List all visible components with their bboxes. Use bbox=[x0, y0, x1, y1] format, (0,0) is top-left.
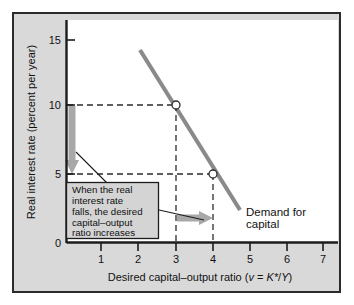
x-ticklabel-5: 5 bbox=[247, 253, 253, 265]
x-ticklabel-4: 4 bbox=[210, 253, 216, 265]
y-axis-title: Real interest rate (percent per year) bbox=[25, 45, 37, 219]
explanation-line-2: interest rate bbox=[72, 195, 123, 206]
x-axis-title-k: K* bbox=[266, 271, 278, 283]
point-a-marker bbox=[172, 101, 180, 109]
x-ticklabel-2: 2 bbox=[135, 253, 141, 265]
demand-curve-label-line1: Demand for bbox=[246, 206, 306, 218]
x-axis-title-eq: = bbox=[254, 271, 267, 283]
x-axis-ticks bbox=[101, 243, 323, 251]
y-ticklabel-10: 10 bbox=[49, 99, 61, 111]
demand-curve-label-line2: capital bbox=[246, 218, 279, 230]
explanation-line-5: ratio increases bbox=[72, 227, 135, 238]
x-axis-title-suffix: ) bbox=[289, 271, 293, 283]
annotation-leader-up bbox=[76, 152, 110, 186]
chart-svg: 15 10 5 0 1 2 3 4 5 6 7 Real interest ra… bbox=[0, 0, 354, 305]
x-ticklabel-3: 3 bbox=[173, 253, 179, 265]
explanation-line-1: When the real bbox=[72, 184, 132, 195]
x-ticklabel-6: 6 bbox=[284, 253, 290, 265]
explanation-line-3: falls, the desired bbox=[72, 206, 143, 217]
y-ticklabel-15: 15 bbox=[49, 34, 61, 46]
x-axis-title: Desired capital–output ratio (v = K*/Y) bbox=[108, 271, 292, 283]
x-ticklabel-7: 7 bbox=[320, 253, 326, 265]
y-ticklabel-5: 5 bbox=[55, 168, 61, 180]
figure-root: 15 10 5 0 1 2 3 4 5 6 7 Real interest ra… bbox=[0, 0, 354, 305]
x-axis-title-prefix: Desired capital–output ratio ( bbox=[108, 271, 249, 283]
point-b-marker bbox=[209, 170, 217, 178]
x-ticklabel-1: 1 bbox=[98, 253, 104, 265]
y-ticklabel-0: 0 bbox=[55, 237, 61, 249]
